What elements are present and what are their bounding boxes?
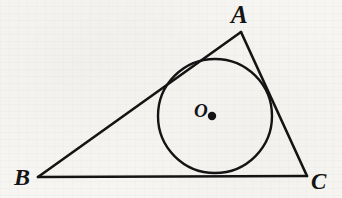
geometry-canvas	[0, 0, 342, 198]
incenter-label-o: O	[194, 101, 208, 120]
vertex-label-b: B	[14, 165, 30, 189]
vertex-label-a: A	[231, 2, 248, 27]
side-ac	[241, 32, 307, 176]
geometry-figure: A B C O	[0, 0, 342, 198]
side-ab	[38, 32, 241, 177]
incenter-dot	[208, 112, 216, 120]
vertex-label-c: C	[311, 170, 326, 193]
side-bc	[38, 176, 307, 177]
